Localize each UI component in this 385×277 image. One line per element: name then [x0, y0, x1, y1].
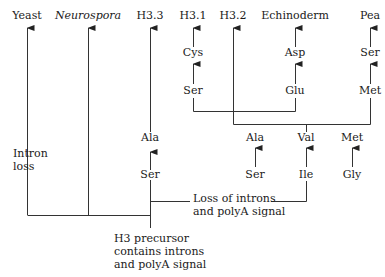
leaf-h3-1: H3.1: [179, 9, 206, 22]
pea-upper-residue: Ser: [360, 46, 379, 59]
intron-loss-line1: Intron: [13, 147, 48, 160]
precursor-line2: contains introns: [114, 245, 206, 258]
intron-loss-annotation: Intron loss: [13, 147, 48, 173]
precursor-line1: H3 precursor: [114, 232, 206, 245]
leaf-echinoderm: Echinoderm: [261, 9, 329, 22]
echinoderm-lower-residue: Glu: [285, 84, 304, 97]
mid1-lower-residue: Ser: [245, 168, 264, 181]
intron-loss-line2: loss: [13, 160, 48, 173]
pea-lower-residue: Met: [359, 84, 381, 97]
mid2-lower-residue: Ile: [299, 168, 313, 181]
h3-precursor-annotation: H3 precursor contains introns and polyA …: [114, 232, 206, 271]
echinoderm-upper-residue: Asp: [285, 46, 306, 59]
h31-upper-residue: Cys: [183, 46, 203, 59]
mid2-upper-residue: Val: [297, 131, 314, 144]
leaf-h3-2: H3.2: [219, 9, 246, 22]
histone-h3-evolution-diagram: Yeast Neurospora H3.3 H3.1 H3.2 Echinode…: [0, 0, 385, 277]
mid1-upper-residue: Ala: [246, 131, 264, 144]
loss-introns-line2: and polyA signal: [193, 205, 285, 218]
h33-lower-residue: Ser: [140, 168, 159, 181]
leaf-neurospora: Neurospora: [55, 9, 121, 22]
precursor-line3: and polyA signal: [114, 258, 206, 271]
loss-introns-line1: Loss of introns: [193, 192, 285, 205]
loss-of-introns-annotation: Loss of introns and polyA signal: [193, 192, 285, 218]
leaf-yeast: Yeast: [12, 9, 41, 22]
h33-upper-residue: Ala: [141, 131, 159, 144]
mid3-lower-residue: Gly: [343, 168, 362, 181]
leaf-h3-3: H3.3: [136, 9, 163, 22]
leaf-pea: Pea: [360, 9, 380, 22]
mid3-upper-residue: Met: [341, 131, 363, 144]
h31-lower-residue: Ser: [183, 84, 202, 97]
